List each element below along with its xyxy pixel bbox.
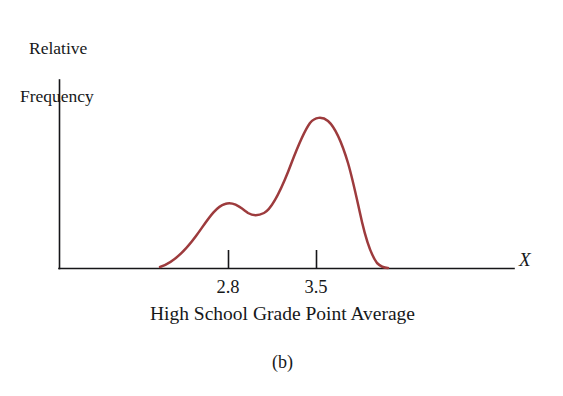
density-curve-path (160, 118, 388, 268)
figure-panel-b: Relative Frequency 2.8 3.5 X High School… (0, 0, 563, 396)
x-axis-variable-symbol: X (519, 249, 531, 271)
x-tick-label-2-8: 2.8 (198, 277, 258, 297)
x-axis-title: High School Grade Point Average (60, 303, 505, 325)
density-curve-plot (0, 0, 563, 396)
panel-caption: (b) (60, 352, 505, 373)
x-tick-label-3-5: 3.5 (286, 277, 346, 297)
